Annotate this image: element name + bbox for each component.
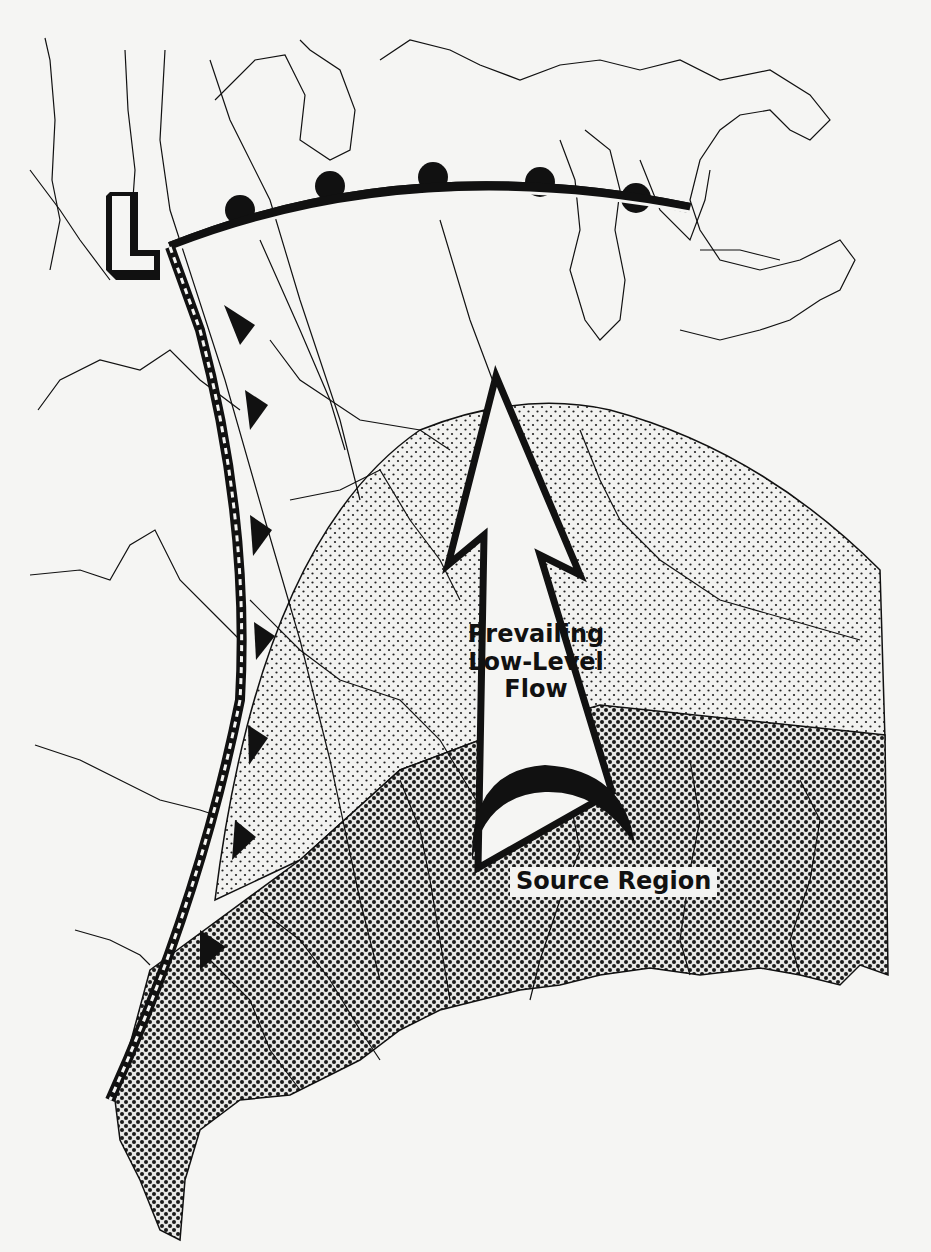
flow-label: Prevailing Low-Level Flow bbox=[452, 621, 620, 704]
weather-diagram: Prevailing Low-Level Flow Source Region bbox=[0, 0, 931, 1252]
source-region-label: Source Region bbox=[510, 867, 717, 897]
flow-label-line-3: Flow bbox=[452, 676, 620, 704]
cold-front-triangle bbox=[245, 390, 268, 430]
flow-label-line-1: Prevailing bbox=[452, 621, 620, 649]
low-pressure-symbol bbox=[102, 188, 172, 286]
cold-front-triangle bbox=[250, 515, 272, 556]
warm-front bbox=[170, 162, 690, 250]
flow-label-line-2: Low-Level bbox=[452, 649, 620, 677]
cold-front-triangle bbox=[224, 305, 255, 345]
